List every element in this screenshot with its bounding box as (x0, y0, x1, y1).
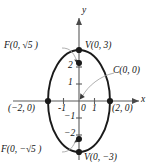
origin-label: 0 (81, 104, 86, 114)
ellipse-figure: x y -1 1 0 2 1 −1 −2 F(0, √5 ) F(0, −√5 … (0, 0, 159, 167)
ytick-label-2: 2 (68, 61, 73, 71)
ytick-label-neg2: −2 (64, 129, 75, 139)
ytick-label-1: 1 (68, 78, 73, 88)
y-axis-arrowhead (76, 18, 82, 25)
ytick-label-neg1: −1 (64, 112, 75, 122)
label-center: C(0, 0) (113, 66, 140, 76)
label-focus-upper: F(0, √5 ) (4, 41, 38, 51)
arrowhead-center (80, 93, 85, 99)
y-axis-label: y (82, 6, 86, 16)
x-axis-label: x (141, 95, 145, 105)
label-vertex-upper: V(0, 3) (85, 41, 111, 51)
xtick-label-1: 1 (92, 104, 97, 114)
label-focus-lower: F(0, −√5 ) (1, 145, 41, 155)
point-focus-upper (76, 60, 82, 66)
label-x-intercept-right: (2, 0) (112, 104, 133, 114)
label-vertex-lower: V(0, −3) (84, 153, 117, 163)
point-vertex-upper (76, 47, 82, 53)
graph-canvas (0, 0, 159, 167)
point-x-intercept-left (45, 98, 51, 104)
label-x-intercept-left: (−2, 0) (8, 104, 35, 114)
point-focus-lower (76, 136, 82, 142)
x-axis-arrowhead (132, 98, 139, 104)
point-vertex-lower (76, 149, 82, 155)
